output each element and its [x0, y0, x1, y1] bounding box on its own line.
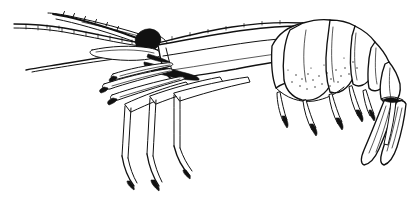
figure-canvas: Shrimp lateral view line illustration	[0, 0, 416, 199]
shrimp-illustration: Shrimp lateral view line illustration	[0, 0, 416, 199]
